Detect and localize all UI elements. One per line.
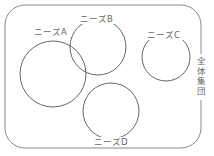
universe-label-char: 集	[197, 76, 206, 86]
set-circle-need-b	[70, 19, 126, 75]
set-label-need-c: ニーズC	[147, 30, 180, 40]
set-circle-need-d	[83, 83, 139, 139]
set-label-need-a: ニーズA	[34, 27, 67, 37]
set-label-need-b: ニーズB	[80, 14, 113, 24]
universe-label: 全体集団	[197, 56, 206, 96]
set-circle-need-a	[20, 41, 86, 107]
set-label-need-d: ニーズD	[94, 137, 128, 147]
set-circle-need-c	[142, 33, 190, 81]
universe-label-char: 全	[197, 56, 206, 66]
universe-label-char: 団	[197, 86, 206, 96]
venn-diagram: ニーズA ニーズB ニーズC ニーズD 全体集団	[0, 0, 214, 156]
universe-label-char: 体	[197, 66, 206, 76]
